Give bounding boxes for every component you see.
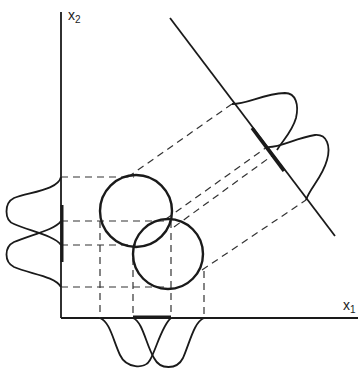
diagram-canvas: x2 x1: [0, 0, 363, 376]
dashed-projections-x1: [100, 221, 204, 318]
class-1-circle: [100, 175, 172, 247]
discriminant-overlap-segment: [252, 128, 284, 171]
x1-axis-label: x1: [343, 298, 356, 315]
oblique-marginal-densities: [232, 93, 329, 200]
x1-label-text: x: [343, 297, 350, 313]
dashed-projections-oblique: [128, 104, 306, 270]
x2-label-text: x: [68, 7, 75, 23]
discriminant-line: [170, 18, 335, 236]
x2-axis-label: x2: [68, 8, 81, 25]
x2-marginal-densities: [7, 177, 63, 287]
axes: [61, 12, 358, 318]
class-circles: [100, 175, 203, 289]
x1-marginal-densities: [100, 317, 204, 367]
x2-label-subscript: 2: [75, 14, 81, 25]
x1-label-subscript: 1: [350, 304, 356, 315]
dashed-projections-x2: [61, 177, 168, 287]
diagram-svg: [0, 0, 363, 376]
